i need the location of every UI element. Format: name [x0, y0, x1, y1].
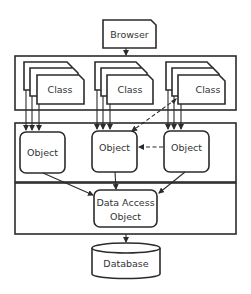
- browser-label: Browser: [110, 29, 149, 40]
- class-label: Class: [118, 84, 143, 95]
- object-node-1: Object: [20, 132, 65, 173]
- class-stack-1: Class: [24, 62, 84, 104]
- dao-label-line2: Object: [110, 211, 141, 222]
- object-label: Object: [99, 142, 130, 153]
- object-node-2: Object: [92, 131, 137, 172]
- object-label: Object: [27, 147, 58, 158]
- data-access-object-node: Data Access Object: [94, 190, 157, 227]
- dao-label-line1: Data Access: [96, 197, 154, 208]
- class-label: Class: [48, 84, 73, 95]
- class-stack-3: Class: [166, 62, 225, 104]
- class-label: Class: [196, 84, 221, 95]
- browser-node: Browser: [103, 20, 156, 48]
- object-node-3: Object: [164, 131, 209, 172]
- object1-to-dao-arrow: [43, 173, 93, 195]
- object2-to-dao-arrow: [115, 172, 116, 189]
- database-label: Database: [103, 258, 148, 269]
- object-label: Object: [171, 142, 202, 153]
- class-stack-2: Class: [95, 62, 153, 104]
- database-node: Database: [92, 243, 160, 279]
- architecture-diagram: Browser Class Class Class: [0, 0, 251, 294]
